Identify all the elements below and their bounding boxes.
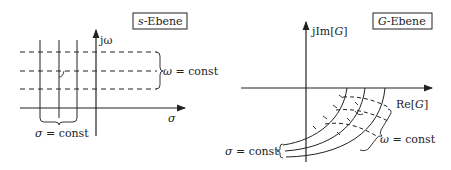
g-plane: G-Ebene jIm[G] Re[G] [225,13,436,162]
omega-const-label-g: ω = const [380,133,436,146]
s-plane: s-Ebene jω σ ω = const σ = const [20,13,219,140]
curve-ticks [313,95,358,135]
re-axis-label: Re[G] [396,98,428,111]
omega-const-lines [20,52,157,89]
s-plane-title: s-Ebene [138,15,183,28]
sigma-const-label: σ = const [35,127,89,140]
omega-brace [156,52,163,89]
sigma-brace [40,118,77,125]
g-plane-title: G-Ebene [378,15,426,28]
jomega-axis-label: jω [98,34,112,47]
right-angle-arc [59,71,64,77]
conformal-mapping-diagram: s-Ebene jω σ ω = const σ = const G-Ebene [0,0,451,170]
sigma-const-label-g: σ = const [225,145,279,158]
sigma-axis-label: σ [168,112,176,125]
im-axis-label: jIm[G] [310,25,348,38]
omega-const-label: ω = const [163,65,219,78]
